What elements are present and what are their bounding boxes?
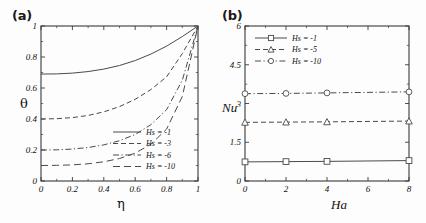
panel-a-x-tick-label: 0.2 <box>62 184 82 194</box>
panel-a-legend-label: Hs = -6 <box>145 151 171 160</box>
panel-a-x-tick-label: 1 <box>188 184 208 194</box>
panel-b-x-axis-title: Ha <box>331 197 347 213</box>
panel-a: (a) Hs = -1Hs = -3Hs = -6Hs = -10 θ η 00… <box>0 0 213 223</box>
panel-a-y-tick-label: 0 <box>11 176 37 186</box>
panel-a-x-tick-label: 0.8 <box>157 184 177 194</box>
panel-a-y-tick-label: 0.4 <box>11 114 37 124</box>
panel-b-legend-label: Hs = -10 <box>291 57 321 66</box>
panel-b-legend-label: Hs = -5 <box>291 45 317 54</box>
panel-a-x-tick-label: 0.6 <box>125 184 145 194</box>
panel-a-y-tick-label: 0.2 <box>11 145 37 155</box>
panel-b-x-tick-label: 4 <box>317 184 337 194</box>
panel-b-y-tick-label: 0 <box>215 176 241 186</box>
panel-b-y-tick-label: 3 <box>215 99 241 109</box>
panel-a-x-axis-title: η <box>117 196 125 211</box>
panel-a-legend-label: Hs = -3 <box>145 139 171 148</box>
panel-a-y-tick-label: 1 <box>11 21 37 31</box>
panel-b: (b) Hs = -1Hs = -5Hs = -10 Nu Ha 0246801… <box>213 0 426 223</box>
figure-container: (a) Hs = -1Hs = -3Hs = -6Hs = -10 θ η 00… <box>0 0 426 223</box>
panel-b-x-tick-label: 8 <box>399 184 419 194</box>
panel-a-y-tick-label: 0.8 <box>11 52 37 62</box>
panel-b-y-tick-label: 1.5 <box>215 137 241 147</box>
panel-b-x-tick-label: 6 <box>358 184 378 194</box>
panel-a-y-axis-title: θ <box>20 96 28 111</box>
panel-a-legend-label: Hs = -1 <box>145 128 171 137</box>
panel-b-legend-label: Hs = -1 <box>291 34 317 43</box>
panel-b-x-tick-label: 2 <box>276 184 296 194</box>
panel-b-y-tick-label: 4.5 <box>215 60 241 70</box>
panel-a-legend-label: Hs = -10 <box>145 162 175 171</box>
panel-b-y-tick-label: 6 <box>215 21 241 31</box>
panel-a-x-tick-label: 0.4 <box>94 184 114 194</box>
panel-a-y-tick-label: 0.6 <box>11 83 37 93</box>
